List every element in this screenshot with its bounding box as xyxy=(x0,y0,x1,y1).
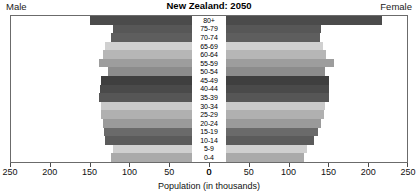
pyramid-row: 0-4 xyxy=(11,153,407,162)
female-bar xyxy=(209,50,326,59)
age-group-label: 45-49 xyxy=(192,76,226,85)
pyramid-row: 25-29 xyxy=(11,110,407,119)
plot-area: 80+75-7970-7465-6960-6455-5950-5445-4940… xyxy=(10,15,408,163)
pyramid-row: 50-54 xyxy=(11,67,407,76)
age-group-label: 80+ xyxy=(192,16,226,25)
female-bar xyxy=(209,102,325,111)
pyramid-row: 65-69 xyxy=(11,42,407,51)
pyramid-row: 55-59 xyxy=(11,59,407,68)
axis-tick-label: 50 xyxy=(244,167,254,178)
axis-tick-label: 250 xyxy=(400,167,415,178)
age-group-label: 70-74 xyxy=(192,33,226,42)
female-bar xyxy=(209,67,325,76)
axis-tick-label: 50 xyxy=(164,167,174,178)
age-group-label: 20-24 xyxy=(192,119,226,128)
chart-title: New Zealand: 2050 xyxy=(0,0,418,12)
age-group-label: 65-69 xyxy=(192,42,226,51)
female-bar xyxy=(209,59,334,68)
age-group-label: 30-34 xyxy=(192,102,226,111)
axis-tick-label: 150 xyxy=(82,167,97,178)
chart-header: Male New Zealand: 2050 Female xyxy=(0,0,418,14)
age-group-label: 0-4 xyxy=(192,153,226,162)
age-group-label: 60-64 xyxy=(192,50,226,59)
x-axis: Population (in thousands) 25020015010050… xyxy=(10,163,408,195)
axis-tick-label: 250 xyxy=(2,167,17,178)
pyramid-row: 70-74 xyxy=(11,33,407,42)
pyramid-row: 15-19 xyxy=(11,128,407,137)
age-group-label: 10-14 xyxy=(192,136,226,145)
axis-tick-label: 200 xyxy=(42,167,57,178)
age-group-label: 5-9 xyxy=(192,145,226,154)
pyramid-row: 10-14 xyxy=(11,136,407,145)
pyramid-row: 30-34 xyxy=(11,102,407,111)
female-side-label: Female xyxy=(380,1,412,12)
pyramid-row: 20-24 xyxy=(11,119,407,128)
axis-tick-label: 100 xyxy=(122,167,137,178)
age-group-label: 25-29 xyxy=(192,110,226,119)
pyramid-row: 45-49 xyxy=(11,76,407,85)
pyramid-row: 75-79 xyxy=(11,25,407,34)
age-group-label: 15-19 xyxy=(192,128,226,137)
axis-tick-label: 100 xyxy=(281,167,296,178)
age-group-label: 55-59 xyxy=(192,59,226,68)
age-group-label: 40-44 xyxy=(192,85,226,94)
axis-tick-label: 150 xyxy=(321,167,336,178)
pyramid-row: 60-64 xyxy=(11,50,407,59)
pyramid-row: 80+ xyxy=(11,16,407,25)
axis-tick-label: 0 xyxy=(206,167,211,178)
bar-rows: 80+75-7970-7465-6960-6455-5950-5445-4940… xyxy=(11,16,407,162)
pyramid-row: 5-9 xyxy=(11,145,407,154)
age-group-label: 50-54 xyxy=(192,67,226,76)
x-axis-title: Population (in thousands) xyxy=(10,181,408,192)
female-bar xyxy=(209,16,382,25)
population-pyramid-chart: Male New Zealand: 2050 Female 80+75-7970… xyxy=(0,0,418,195)
female-bar xyxy=(209,42,323,51)
female-bar xyxy=(209,76,329,85)
pyramid-row: 40-44 xyxy=(11,85,407,94)
pyramid-row: 35-39 xyxy=(11,93,407,102)
female-bar xyxy=(209,93,329,102)
age-group-label: 75-79 xyxy=(192,25,226,34)
female-bar xyxy=(209,110,324,119)
age-group-label: 35-39 xyxy=(192,93,226,102)
female-bar xyxy=(209,85,329,94)
axis-tick-label: 200 xyxy=(361,167,376,178)
